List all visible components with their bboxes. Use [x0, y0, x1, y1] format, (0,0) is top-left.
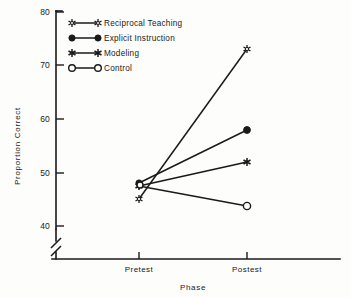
chart-legend: Reciprocal Teaching Explicit Instruction [69, 19, 183, 73]
y-tick-label-40: 40 [40, 221, 50, 231]
series-explicit-instruction [136, 127, 251, 186]
legend-item-control: Control [69, 64, 132, 73]
x-tick-label-pretest: Pretest [125, 265, 154, 274]
legend-label-reciprocal-teaching: Reciprocal Teaching [104, 19, 183, 28]
chart-canvas: 80 70 60 50 40 Proportion Correct Pretes… [0, 0, 351, 297]
series-reciprocal-teaching [136, 45, 251, 203]
series-modeling-line [139, 162, 247, 186]
series-modeling [136, 158, 251, 190]
legend-item-explicit-instruction: Explicit Instruction [69, 34, 175, 43]
series-control-point-postest [243, 202, 250, 209]
legend-label-control: Control [104, 64, 132, 73]
x-tick-label-postest: Postest [232, 265, 262, 274]
legend-item-modeling: Modeling [69, 49, 140, 58]
legend-item-reciprocal-teaching: Reciprocal Teaching [69, 19, 183, 28]
x-axis-title: Phase [180, 283, 206, 292]
series-explicit-instruction-line [139, 130, 247, 183]
y-tick-label-70: 70 [40, 60, 50, 70]
series-control-point-pretest [137, 182, 143, 188]
y-tick-label-60: 60 [40, 114, 50, 124]
line-chart-figure: 80 70 60 50 40 Proportion Correct Pretes… [0, 0, 351, 297]
y-tick-label-80: 80 [40, 7, 50, 17]
series-control [137, 182, 251, 210]
legend-label-explicit-instruction: Explicit Instruction [104, 34, 175, 43]
series-reciprocal-teaching-line [139, 49, 247, 199]
legend-label-modeling: Modeling [104, 49, 139, 58]
x-axis: Pretest Postest Phase [52, 252, 340, 292]
y-axis-title: Proportion Correct [13, 107, 22, 185]
y-axis-break-icon [51, 229, 61, 259]
y-tick-label-50: 50 [40, 168, 50, 178]
y-axis: 80 70 60 50 40 Proportion Correct [13, 7, 64, 231]
series-explicit-instruction-point-postest [244, 127, 251, 134]
series-control-line [139, 186, 247, 206]
